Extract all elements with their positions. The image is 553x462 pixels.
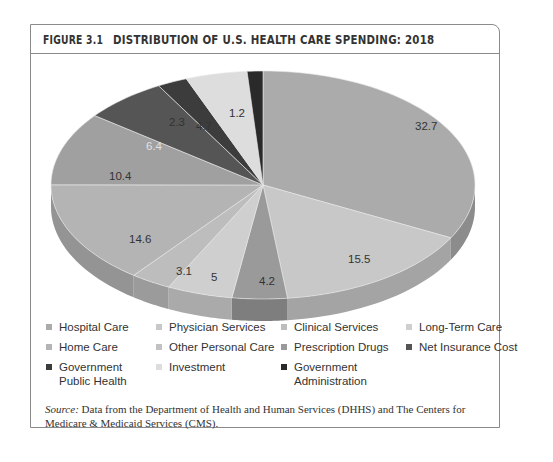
- legend-item: Physician Services: [151, 320, 276, 334]
- legend-swatch-icon: [406, 324, 412, 330]
- pie-data-label: 4.2: [259, 275, 275, 287]
- legend-item: Investment: [151, 360, 276, 388]
- legend-item: Government Public Health: [41, 360, 151, 388]
- pie-data-label: 14.6: [129, 233, 151, 245]
- source-note: Source: Data from the Department of Heal…: [45, 402, 490, 430]
- pie-data-label: 6.4: [146, 140, 163, 152]
- legend-label: Home Care: [59, 340, 118, 354]
- pie-data-label: 10.4: [109, 170, 132, 182]
- legend-label: Prescription Drugs: [294, 340, 389, 354]
- legend-swatch-icon: [281, 344, 287, 350]
- source-prefix: Source:: [45, 403, 79, 415]
- legend-label: Government Administration: [294, 360, 384, 388]
- legend-label: Other Personal Care: [169, 340, 274, 354]
- legend-item: Hospital Care: [41, 320, 151, 334]
- legend-item: Government Administration: [276, 360, 401, 388]
- legend-label: Investment: [169, 360, 225, 374]
- pie-data-label: 4.7: [196, 120, 212, 132]
- legend-item: Other Personal Care: [151, 340, 276, 354]
- pie-data-label: 1.2: [229, 107, 245, 119]
- legend-item: Prescription Drugs: [276, 340, 401, 354]
- legend-item: Home Care: [41, 340, 151, 354]
- legend-label: Hospital Care: [59, 320, 129, 334]
- legend-label: Government Public Health: [59, 360, 149, 388]
- pie-chart: 32.715.54.253.114.610.46.42.34.71.2: [31, 25, 499, 325]
- legend-label: Clinical Services: [294, 320, 378, 334]
- pie-data-label: 2.3: [169, 116, 185, 128]
- pie-data-label: 5: [211, 271, 217, 283]
- chart-legend: Hospital CarePhysician ServicesClinical …: [41, 320, 496, 388]
- legend-swatch-icon: [156, 324, 162, 330]
- legend-label: Physician Services: [169, 320, 266, 334]
- pie-slice-side: [232, 298, 288, 321]
- legend-label: Net Insurance Cost: [419, 340, 517, 354]
- pie-data-label: 15.5: [348, 253, 370, 265]
- figure-frame: FIGURE 3.1 DISTRIBUTION OF U.S. HEALTH C…: [30, 24, 500, 428]
- legend-swatch-icon: [156, 344, 162, 350]
- legend-item: Net Insurance Cost: [401, 340, 526, 354]
- legend-label: Long-Term Care: [419, 320, 502, 334]
- legend-swatch-icon: [46, 344, 52, 350]
- legend-swatch-icon: [281, 364, 287, 370]
- legend-swatch-icon: [406, 344, 412, 350]
- pie-data-label: 3.1: [176, 265, 192, 277]
- legend-item: Clinical Services: [276, 320, 401, 334]
- legend-swatch-icon: [46, 364, 52, 370]
- legend-item: Long-Term Care: [401, 320, 526, 334]
- source-text: Data from the Department of Health and H…: [45, 403, 465, 429]
- legend-swatch-icon: [281, 324, 287, 330]
- legend-swatch-icon: [156, 364, 162, 370]
- legend-swatch-icon: [46, 324, 52, 330]
- pie-data-label: 32.7: [415, 120, 437, 132]
